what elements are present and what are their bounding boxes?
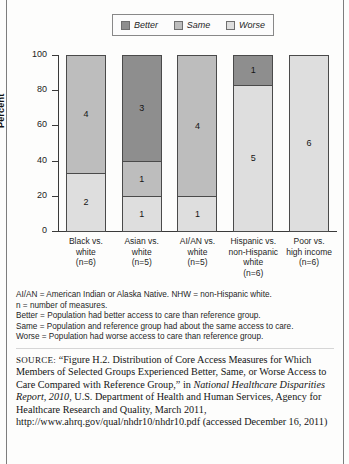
x-label-line: non-Hispanic — [225, 247, 281, 258]
legend-item-worse: Worse — [226, 20, 265, 30]
x-axis-label-aian-vs-white: AI/AN vs. white (n=5) — [170, 236, 226, 278]
legend-swatch-same-icon — [174, 21, 183, 30]
x-label-line: (n=6) — [281, 257, 337, 268]
bar-stack: 3 1 1 — [122, 55, 162, 232]
y-tick-label: 40 — [21, 155, 47, 165]
bar-stack: 6 — [289, 55, 329, 232]
note-line: n = number of measures. — [16, 301, 334, 312]
bar-segment-worse: 2 — [67, 173, 105, 231]
bar-segment-value: 3 — [139, 104, 144, 113]
frame-border-right — [343, 0, 344, 464]
bar-segment-worse: 5 — [234, 85, 272, 231]
y-tick-label: 100 — [21, 49, 47, 59]
y-tick-label: 20 — [21, 190, 47, 200]
bar-segment-better: 3 — [123, 56, 161, 161]
source-kicker: SOURCE: — [16, 355, 56, 365]
bar-segment-worse: 1 — [178, 196, 216, 231]
x-axis-labels: Black vs. white (n=6) Asian vs. white (n… — [58, 236, 337, 278]
frame-border-left — [6, 0, 7, 464]
bar-column-poor-vs-high-income: 6 — [289, 55, 329, 232]
bar-segment-value: 4 — [83, 110, 88, 119]
x-label-line: (n=5) — [170, 257, 226, 268]
x-label-line: high income — [281, 247, 337, 258]
bar-segment-same: 4 — [178, 56, 216, 196]
bar-segment-worse: 6 — [290, 56, 328, 231]
bar-segment-value: 1 — [251, 66, 256, 75]
y-tick-label: 80 — [21, 84, 47, 94]
legend-label-better: Better — [134, 20, 158, 30]
y-axis-title: Percent — [0, 94, 6, 128]
y-tick-label: 0 — [21, 225, 47, 235]
x-axis-label-poor-vs-high-income: Poor vs. high income (n=6) — [281, 236, 337, 278]
bar-segment-worse: 1 — [123, 196, 161, 231]
legend-label-same: Same — [187, 20, 211, 30]
bar-segment-value: 4 — [195, 122, 200, 131]
bar-segment-same: 1 — [123, 161, 161, 196]
legend-swatch-worse-icon — [226, 21, 235, 30]
x-label-line: white — [225, 257, 281, 268]
figure-notes: AI/AN = American Indian or Alaska Native… — [16, 290, 334, 343]
legend-swatch-better-icon — [121, 21, 130, 30]
x-label-line: Asian vs. — [114, 236, 170, 247]
x-label-line: Black vs. — [58, 236, 114, 247]
bar-column-black-vs-white: 4 2 — [66, 55, 106, 232]
bar-segment-value: 2 — [83, 198, 88, 207]
chart-legend: Better Same Worse — [112, 14, 274, 36]
note-line: AI/AN = American Indian or Alaska Native… — [16, 290, 334, 301]
legend-label-worse: Worse — [239, 20, 265, 30]
bar-segment-same: 4 — [67, 56, 105, 173]
y-tick-label: 60 — [21, 119, 47, 129]
x-label-line: white — [114, 247, 170, 258]
x-label-line: white — [58, 247, 114, 258]
bar-segment-value: 6 — [307, 139, 312, 148]
x-label-line: AI/AN vs. — [170, 236, 226, 247]
bar-group: 4 2 3 1 1 — [58, 55, 337, 232]
note-line: Same = Population and reference group ha… — [16, 322, 334, 333]
x-label-line: white — [170, 247, 226, 258]
x-label-line: (n=6) — [225, 268, 281, 279]
figure-container: Better Same Worse Percent 100 80 60 40 2… — [0, 0, 349, 464]
bar-column-asian-vs-white: 3 1 1 — [122, 55, 162, 232]
x-axis-label-black-vs-white: Black vs. white (n=6) — [58, 236, 114, 278]
x-label-line: Hispanic vs. — [225, 236, 281, 247]
bar-column-hispanic-vs-nhw: 1 5 — [233, 55, 273, 232]
note-line: Better = Population had better access to… — [16, 311, 334, 322]
x-label-line: Poor vs. — [281, 236, 337, 247]
bar-stack: 1 5 — [233, 55, 273, 232]
bar-stack: 4 2 — [66, 55, 106, 232]
notes-source-divider — [16, 348, 334, 349]
bar-stack: 4 1 — [177, 55, 217, 232]
x-axis-label-asian-vs-white: Asian vs. white (n=5) — [114, 236, 170, 278]
bar-segment-better: 1 — [234, 56, 272, 85]
bar-column-aian-vs-white: 4 1 — [177, 55, 217, 232]
bar-segment-value: 1 — [139, 175, 144, 184]
bar-segment-value: 1 — [195, 210, 200, 219]
x-axis-label-hispanic-vs-nhw: Hispanic vs. non-Hispanic white (n=6) — [225, 236, 281, 278]
bar-segment-value: 1 — [139, 210, 144, 219]
x-label-line: (n=5) — [114, 257, 170, 268]
source-citation: SOURCE: “Figure H.2. Distribution of Cor… — [16, 354, 336, 428]
bar-segment-value: 5 — [251, 154, 256, 163]
x-label-line: (n=6) — [58, 257, 114, 268]
legend-item-same: Same — [174, 20, 211, 30]
note-line: Worse = Population had worse access to c… — [16, 332, 334, 343]
legend-item-better: Better — [121, 20, 158, 30]
